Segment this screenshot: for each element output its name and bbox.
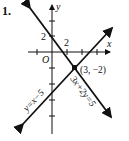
- line-label-y-x-5: y=x−5: [20, 87, 46, 114]
- origin-label: O: [42, 54, 49, 65]
- y-tick-label: 2: [41, 31, 46, 42]
- x-tick-label: 2: [64, 37, 69, 48]
- intersection-point: [72, 65, 77, 70]
- x-axis-label: x: [106, 38, 112, 49]
- y-axis-label: y: [55, 1, 61, 12]
- intersection-label: (3, −2): [80, 65, 106, 76]
- graph: y x O 2 2 (3, −2) y=x−5 3x+2y=5: [0, 0, 129, 141]
